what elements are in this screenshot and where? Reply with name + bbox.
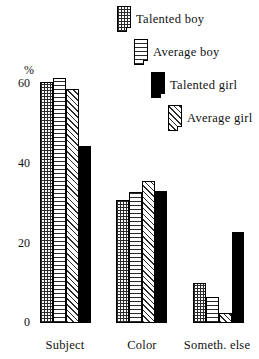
bar-color-talented-boy [116, 200, 129, 323]
bar-something-else-talented-boy [193, 283, 206, 323]
y-axis-unit-label: % [24, 64, 34, 76]
bar-color-average-girl [142, 181, 155, 323]
x-axis-label-subject: Subject [25, 339, 105, 352]
bar-chart-figure: Talented boy Average boy Talented girl A… [0, 0, 259, 359]
bar-something-else-average-girl [219, 313, 232, 323]
bar-subject-talented-girl [79, 146, 91, 323]
plot-area: % 60 40 20 0 Subject Color Someth. else [0, 0, 259, 359]
y-axis-tick-20: 20 [8, 237, 30, 249]
bar-subject-average-boy [53, 78, 66, 323]
bar-color-average-boy [129, 192, 142, 323]
x-axis-label-color: Color [102, 339, 182, 352]
y-axis-tick-60: 60 [8, 77, 30, 89]
bar-something-else-average-boy [206, 297, 219, 323]
bar-color-talented-girl [155, 191, 167, 323]
bar-subject-average-girl [66, 89, 79, 323]
y-axis-tick-0: 0 [8, 316, 30, 328]
bar-subject-talented-boy [40, 82, 53, 323]
y-axis-tick-40: 40 [8, 157, 30, 169]
x-axis-label-something-else: Someth. else [175, 339, 259, 352]
bar-something-else-talented-girl [232, 232, 244, 323]
